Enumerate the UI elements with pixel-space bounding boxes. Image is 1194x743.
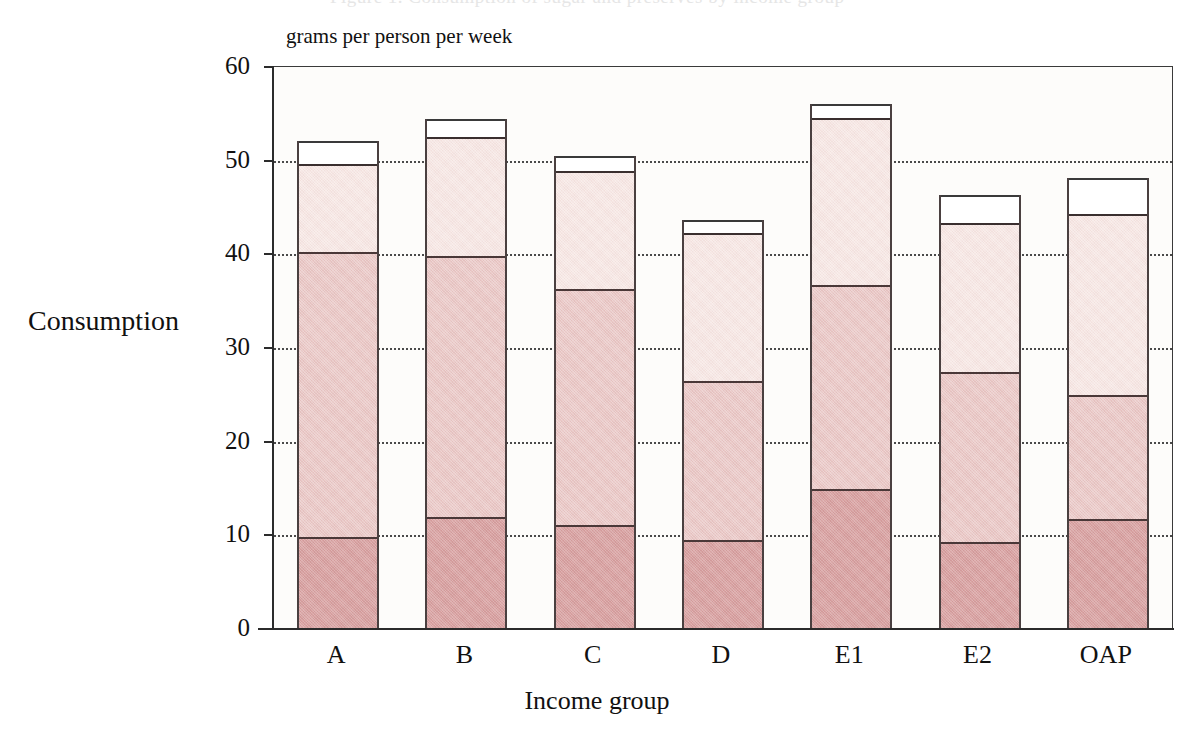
bar-OAP[interactable] [1067,178,1149,629]
y-tick-mark-50 [264,160,274,162]
bar-segment-OAP-segment-1-bottom [1069,519,1147,629]
x-tick-label-C: C [533,640,653,670]
y-axis-title: Consumption [28,305,238,337]
plot-area [272,66,1173,629]
bar-segment-B-segment-4-top [427,119,505,138]
bar-segment-C-segment-4-top [556,156,634,171]
bar-segment-A-segment-2 [299,252,377,537]
bar-segment-D-segment-2 [684,381,762,540]
y-tick-label-30: 30 [196,334,250,359]
y-tick-label-50: 50 [196,147,250,172]
bar-segment-OAP-segment-2 [1069,395,1147,520]
y-tick-mark-0 [264,628,274,630]
gridline-50 [274,161,1172,163]
bar-segment-C-segment-2 [556,289,634,525]
y-tick-label-60: 60 [196,53,250,78]
bar-segment-OAP-segment-4-top [1069,178,1147,215]
y-tick-mark-10 [264,534,274,536]
bar-segment-E1-segment-2 [812,285,890,489]
ghost-title-text: Figure 1. Consumption of sugar and prese… [330,0,844,8]
x-tick-label-E1: E1 [789,640,909,670]
x-tick-label-D: D [661,640,781,670]
y-tick-label-0: 0 [196,615,250,640]
y-tick-label-40: 40 [196,240,250,265]
bar-segment-D-segment-3 [684,233,762,381]
bar-segment-C-segment-3 [556,171,634,289]
bar-C[interactable] [554,156,636,629]
chart-figure: Figure 1. Consumption of sugar and prese… [0,0,1194,743]
x-tick-label-OAP: OAP [1046,640,1166,670]
x-axis-baseline [258,628,1174,630]
y-tick-mark-60 [264,66,274,68]
bar-segment-E2-segment-4-top [941,195,1019,222]
bar-segment-A-segment-1-bottom [299,537,377,629]
bar-B[interactable] [425,119,507,629]
y-tick-label-20: 20 [196,428,250,453]
x-tick-label-B: B [404,640,524,670]
bar-segment-E2-segment-1-bottom [941,542,1019,629]
bar-segment-A-segment-3 [299,164,377,252]
x-tick-label-E2: E2 [918,640,1038,670]
bar-segment-B-segment-1-bottom [427,517,505,629]
bar-E2[interactable] [939,195,1021,629]
y-tick-mark-40 [264,253,274,255]
x-axis-title: Income group [0,686,1194,716]
bar-segment-OAP-segment-3 [1069,214,1147,395]
bar-A[interactable] [297,141,379,629]
bar-segment-E1-segment-3 [812,118,890,286]
bar-segment-B-segment-3 [427,137,505,256]
x-tick-label-A: A [276,640,396,670]
bar-segment-D-segment-1-bottom [684,540,762,629]
units-caption: grams per person per week [286,24,512,49]
bar-segment-E2-segment-3 [941,223,1019,373]
bar-segment-B-segment-2 [427,256,505,516]
y-tick-mark-30 [264,347,274,349]
bar-segment-D-segment-4-top [684,220,762,233]
bar-segment-E1-segment-1-bottom [812,489,890,629]
bar-segment-A-segment-4-top [299,141,377,164]
bar-segment-C-segment-1-bottom [556,525,634,629]
bar-segment-E1-segment-4-top [812,104,890,117]
bar-D[interactable] [682,220,764,629]
bar-E1[interactable] [810,104,892,629]
bar-segment-E2-segment-2 [941,372,1019,542]
cut-off-title-strip: Figure 1. Consumption of sugar and prese… [0,0,1194,18]
y-tick-label-10: 10 [196,521,250,546]
y-tick-mark-20 [264,441,274,443]
